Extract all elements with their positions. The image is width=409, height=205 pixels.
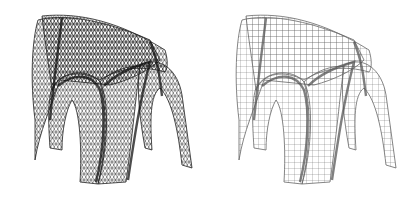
triangular-mesh-vault: [0, 0, 205, 205]
front-left-arch: [253, 73, 311, 184]
figure: [0, 0, 409, 205]
quad-mesh-vault: [204, 0, 409, 205]
front-left-arch: [49, 73, 107, 184]
